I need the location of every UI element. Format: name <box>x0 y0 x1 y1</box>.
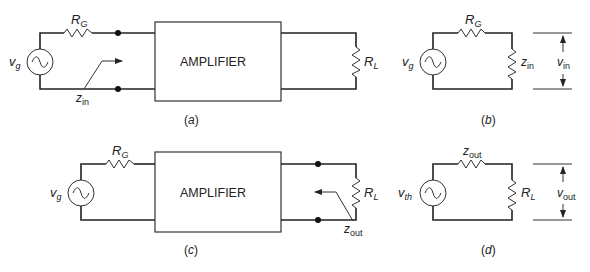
caption-c: (c) <box>184 243 198 257</box>
source-label: vth <box>398 185 412 202</box>
resistor-rl-icon <box>352 178 360 208</box>
resistor-rg-icon <box>106 160 134 168</box>
wire <box>281 77 356 89</box>
resistor-rg-icon <box>64 29 92 37</box>
wire <box>281 33 356 47</box>
rg-label: RG <box>112 143 128 160</box>
rl-label: RL <box>364 54 378 71</box>
zout-label: zout <box>462 144 482 160</box>
wire <box>81 164 106 180</box>
vout-label: vout <box>557 186 576 202</box>
source-label: vg <box>9 54 21 71</box>
rg-label: RG <box>465 12 481 29</box>
resistor-rg-icon <box>458 29 485 37</box>
rl-label: RL <box>521 185 535 202</box>
wire <box>433 75 512 89</box>
rg-label: RG <box>71 12 87 29</box>
wire <box>433 33 458 49</box>
zout-arrow-icon <box>315 192 353 221</box>
ac-source-icon <box>420 180 446 206</box>
terminal-dot <box>315 161 321 167</box>
caption-d: (d) <box>481 243 496 257</box>
amplifier-label: AMPLIFIER <box>180 55 246 69</box>
source-label: vg <box>50 185 62 202</box>
source-label: vg <box>402 54 414 71</box>
terminal-dot <box>115 86 121 92</box>
wire <box>40 33 64 49</box>
zin-label: zin <box>520 55 534 71</box>
panel-b <box>420 29 572 89</box>
resistor-zout-icon <box>458 160 485 168</box>
caption-a: (a) <box>184 113 199 127</box>
ac-source-icon <box>27 49 53 75</box>
ac-source-icon <box>68 180 94 206</box>
terminal-dot <box>315 217 321 223</box>
wire <box>485 33 512 49</box>
resistor-zin-icon <box>508 49 516 79</box>
panel-d <box>420 160 572 220</box>
terminal-dot <box>115 30 121 36</box>
zin-arrow-icon <box>84 61 122 89</box>
resistor-rl-icon <box>352 47 360 77</box>
vin-label: vin <box>557 55 570 71</box>
ac-source-icon <box>420 49 446 75</box>
wire <box>81 206 155 220</box>
wire <box>433 164 458 180</box>
resistor-rl-icon <box>508 180 516 210</box>
wire <box>40 75 155 89</box>
zin-label: zin <box>75 91 89 107</box>
caption-b: (b) <box>481 113 496 127</box>
zout-label: zout <box>343 222 363 238</box>
amplifier-label: AMPLIFIER <box>180 186 246 200</box>
wire <box>485 164 512 180</box>
wire <box>433 206 512 220</box>
rl-label: RL <box>364 185 378 202</box>
